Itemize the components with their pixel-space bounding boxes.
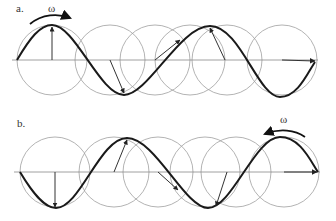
panel-a-label: a. [16, 2, 24, 14]
panel-b [14, 130, 320, 208]
phasor-arrow [210, 28, 225, 60]
panel-b-omega-label: ω [280, 113, 287, 125]
phasor-arrow [114, 140, 127, 172]
phasor-arrow [110, 60, 124, 93]
panel-a [12, 15, 318, 97]
rotation-arrow-icon [30, 15, 70, 24]
panel-a-wave [17, 25, 315, 97]
phasor-wave-diagram: a. ω b. ω [0, 0, 336, 221]
rotation-arrow-icon [265, 130, 305, 137]
panel-b-wave [20, 137, 318, 208]
panel-b-label: b. [17, 117, 25, 129]
panel-a-omega-label: ω [48, 2, 55, 14]
